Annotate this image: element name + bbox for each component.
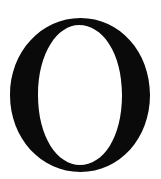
letter-o-glyph: O [0, 0, 161, 179]
letter-o-shape [0, 0, 161, 179]
